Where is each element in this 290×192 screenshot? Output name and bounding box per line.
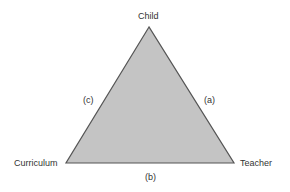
- edge-label-a: (a): [204, 95, 215, 105]
- vertex-label-curriculum: Curriculum: [14, 158, 58, 168]
- edge-label-b: (b): [145, 172, 156, 182]
- edge-label-c: (c): [83, 95, 94, 105]
- vertex-label-teacher: Teacher: [240, 158, 272, 168]
- vertex-label-child: Child: [138, 11, 159, 21]
